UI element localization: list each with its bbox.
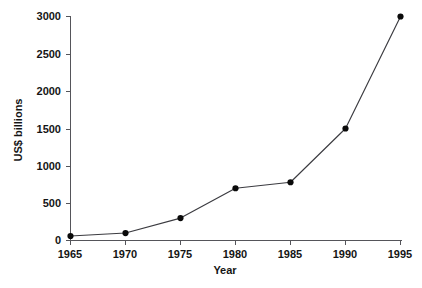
data-point	[122, 230, 128, 236]
x-tick-label: 1990	[333, 248, 357, 260]
x-tick-label: 1985	[278, 248, 302, 260]
data-point	[67, 233, 73, 239]
line-chart: 0 500 1000 1500 2000 2500 3000 1965 1970…	[0, 0, 422, 288]
x-tick-label: 1970	[113, 248, 137, 260]
x-tick-label: 1980	[223, 248, 247, 260]
x-tick-label: 1965	[58, 248, 82, 260]
data-point	[287, 179, 293, 185]
chart-canvas: 0 500 1000 1500 2000 2500 3000 1965 1970…	[0, 0, 422, 288]
y-tick-label: 500	[43, 197, 61, 209]
chart-background	[0, 0, 422, 288]
data-point	[232, 185, 238, 191]
y-axis-title: US$ billions	[12, 99, 24, 162]
data-point	[342, 125, 348, 131]
data-point	[397, 13, 403, 19]
x-axis-title: Year	[213, 264, 237, 276]
x-tick-label: 1995	[388, 248, 412, 260]
y-tick-label: 2000	[37, 85, 61, 97]
y-tick-label: 3000	[37, 10, 61, 22]
data-point	[177, 215, 183, 221]
y-tick-label: 1000	[37, 160, 61, 172]
y-tick-label: 2500	[37, 48, 61, 60]
y-tick-label: 0	[55, 234, 61, 246]
y-tick-label: 1500	[37, 123, 61, 135]
x-tick-label: 1975	[168, 248, 192, 260]
